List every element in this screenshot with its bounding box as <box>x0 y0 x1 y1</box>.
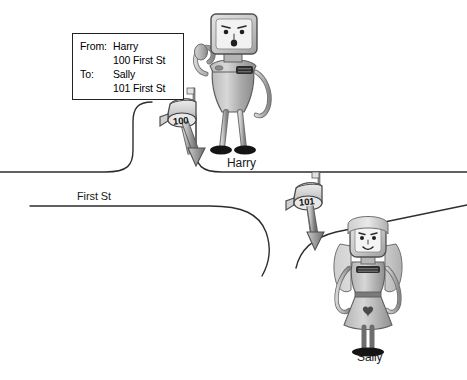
sally-face-screen <box>355 226 381 252</box>
diagram-canvas: From: Harry 100 First St To: Sally 101 F… <box>0 0 467 380</box>
mailbox-101-door <box>286 198 294 210</box>
address-from-spacer <box>80 54 113 68</box>
sally-eye-left <box>360 236 364 240</box>
address-row: From: Harry <box>80 40 165 54</box>
harry-left-hand <box>195 44 208 60</box>
curb-lower-left <box>30 206 269 276</box>
sally-eye-right <box>372 236 376 240</box>
address-to-spacer <box>80 82 113 96</box>
address-to-street: 101 First St <box>113 82 166 96</box>
address-from-key: From: <box>80 40 113 54</box>
address-from-street: 100 First St <box>113 54 166 68</box>
scene-artwork <box>0 0 467 380</box>
address-label: From: Harry 100 First St To: Sally 101 F… <box>72 33 184 100</box>
harry-eye-right <box>240 30 245 35</box>
harry-chest-button <box>215 66 223 70</box>
address-to-key: To: <box>80 68 113 82</box>
mailbox-100-door <box>160 114 168 126</box>
character-harry <box>195 14 270 155</box>
address-table: From: Harry 100 First St To: Sally 101 F… <box>80 40 165 96</box>
address-from-name: Harry <box>113 40 166 54</box>
mailbox-101-number: 101 <box>299 195 315 207</box>
harry-chest-vent <box>236 66 253 74</box>
street-label: First St <box>77 190 111 202</box>
harry-shoe-left <box>210 146 232 155</box>
address-row: To: Sally <box>80 68 165 82</box>
address-to-name: Sally <box>113 68 166 82</box>
address-row: 101 First St <box>80 82 165 96</box>
harry-eye-left <box>224 30 229 35</box>
sally-chest-vent <box>356 266 380 273</box>
harry-name-label: Harry <box>227 156 256 170</box>
curb-upper-left <box>0 102 152 172</box>
character-sally <box>334 217 402 357</box>
address-row: 100 First St <box>80 54 165 68</box>
mailbox-101 <box>286 172 324 250</box>
mailbox-100-number: 100 <box>173 114 189 126</box>
harry-mouth <box>231 39 237 46</box>
harry-shoe-right <box>234 146 256 155</box>
sally-name-label: Sally <box>357 350 383 364</box>
